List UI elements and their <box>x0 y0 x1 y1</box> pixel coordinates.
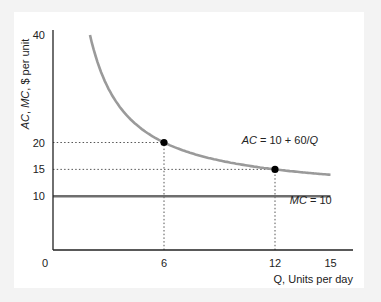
highlight-point <box>271 166 278 173</box>
ac-label: AC = 10 + 60/Q <box>241 134 319 146</box>
x-tick-label: 0 <box>42 257 48 269</box>
x-tick-label: 12 <box>269 257 281 269</box>
ac-curve <box>90 35 331 175</box>
y-tick-label: 40 <box>33 29 45 41</box>
average-cost-chart: 06121510152040 AC = 10 + 60/QMC = 10 Q, … <box>0 0 381 302</box>
y-tick-label: 15 <box>33 163 45 175</box>
series-group <box>53 35 331 196</box>
x-axis-label: Q, Units per day <box>274 273 354 285</box>
y-tick-label: 10 <box>33 190 45 202</box>
y-axis-label: AC, MC, $ per unit <box>19 39 31 131</box>
highlight-point <box>160 139 167 146</box>
y-tick-label: 20 <box>33 137 45 149</box>
mc-label: MC = 10 <box>290 194 332 206</box>
x-tick-label: 15 <box>324 257 336 269</box>
x-tick-label: 6 <box>161 257 167 269</box>
tick-labels: 06121510152040 <box>33 29 337 269</box>
